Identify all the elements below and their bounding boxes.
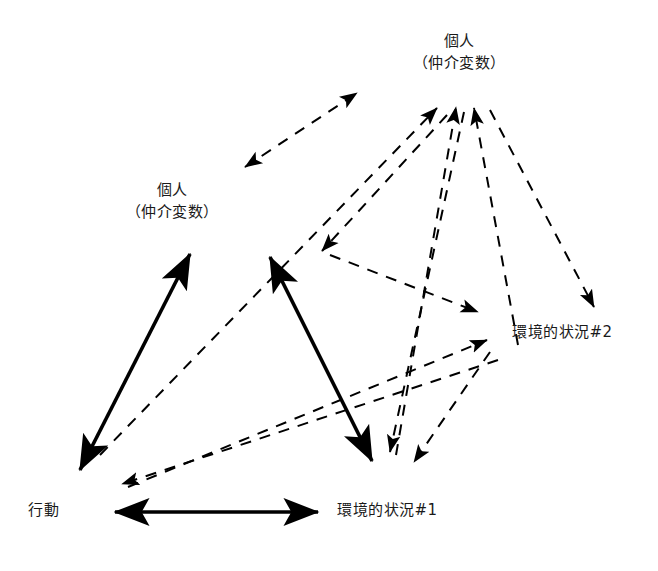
node-environment-condition-1: 環境的状況#1 <box>337 500 477 522</box>
node-environment-condition-2: 環境的状況#2 <box>512 322 652 344</box>
node-person-top-line1: 個人 <box>444 32 475 50</box>
node-person-left: 個人 （仲介変数） <box>102 180 242 224</box>
node-person-top-line2: （仲介変数） <box>389 53 529 75</box>
node-person-top: 個人 （仲介変数） <box>389 31 529 75</box>
edge-layer <box>0 0 658 571</box>
node-behavior-label: 行動 <box>28 501 59 519</box>
diagram-canvas: 個人 （仲介変数） 個人 （仲介変数） 環境的状況#2 環境的状況#1 行動 <box>0 0 658 571</box>
node-person-left-line2: （仲介変数） <box>102 202 242 224</box>
node-environment-condition-2-label: 環境的状況#2 <box>512 323 613 341</box>
edge-dashed-env2-person-top <box>474 108 518 345</box>
edge-dashed-behavior-person-top <box>100 108 437 455</box>
node-behavior: 行動 <box>28 500 98 522</box>
edge-dashed-person-left-person-top <box>245 93 357 167</box>
edge-dashed-behavior-env2 <box>128 340 487 487</box>
edge-dashed-person-top-env1 <box>390 112 464 452</box>
node-environment-condition-1-label: 環境的状況#1 <box>337 501 438 519</box>
edge-dashed-person-left-env2 <box>330 255 478 312</box>
node-person-left-line1: 個人 <box>157 181 188 199</box>
edge-dashed-env2-env1 <box>414 352 490 462</box>
edge-dashed-person-top-person-left-mid <box>322 115 447 251</box>
edges-group <box>80 93 594 512</box>
edge-dashed-env1-person-top <box>396 107 456 455</box>
edge-solid-person-left-behavior <box>80 254 190 470</box>
